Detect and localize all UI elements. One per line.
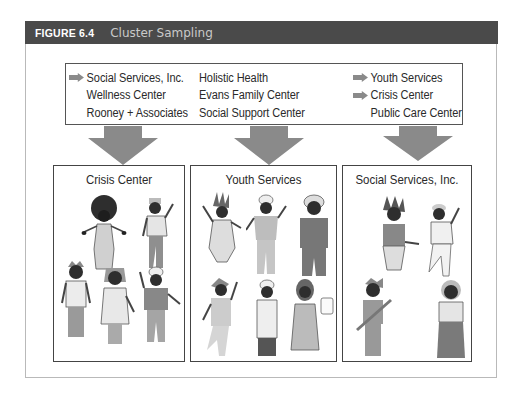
population-item-label: Holistic Health: [199, 71, 268, 85]
population-item: Evans Family Center: [199, 87, 305, 105]
person-illustration: [294, 192, 334, 278]
population-item-label: Social Services, Inc.: [87, 71, 184, 85]
person-illustration: [199, 192, 245, 276]
person-illustration: [139, 196, 179, 274]
person-illustration: [425, 202, 465, 282]
figure-title: Cluster Sampling: [110, 26, 213, 40]
cluster-title: Crisis Center: [62, 172, 176, 187]
person-illustration: [60, 261, 96, 341]
population-item-label: Crisis Center: [371, 88, 433, 102]
population-item: Public Care Center: [353, 104, 462, 122]
population-item: Social Support Center: [199, 104, 305, 122]
population-item: Holistic Health: [199, 69, 305, 87]
person-illustration: [249, 278, 285, 360]
person-illustration: [201, 278, 245, 360]
population-column-3: Youth Services Crisis Center Public Care…: [353, 69, 477, 122]
cluster-box-youth-services: Youth Services: [190, 165, 337, 362]
cluster-title: Youth Services: [200, 172, 328, 187]
population-item-label: Rooney + Associates: [87, 106, 188, 120]
population-item-label: Social Support Center: [199, 106, 305, 120]
population-item: Youth Services: [353, 69, 462, 87]
cluster-box-crisis-center: Crisis Center: [53, 165, 185, 362]
right-arrow-icon: [353, 91, 368, 100]
cluster-box-social-services-inc: Social Services, Inc.: [342, 165, 472, 362]
figure-header: FIGURE 6.4 Cluster Sampling: [25, 21, 498, 44]
person-illustration: [96, 266, 136, 348]
population-item-label: Evans Family Center: [199, 88, 299, 102]
population-column-2: Holistic Health Evans Family Center Soci…: [199, 69, 319, 122]
population-item: Rooney + Associates: [69, 104, 188, 122]
down-arrow-icon: [234, 126, 304, 170]
population-column-1: Social Services, Inc. Wellness Center Ro…: [69, 69, 204, 122]
down-arrow-icon: [383, 126, 453, 166]
population-item: Social Services, Inc.: [69, 69, 188, 87]
figure-number: FIGURE 6.4: [35, 27, 94, 39]
person-illustration: [355, 278, 399, 360]
population-item-label: Public Care Center: [371, 106, 462, 120]
person-illustration: [373, 196, 423, 280]
person-illustration: [289, 276, 335, 360]
population-item-label: Youth Services: [371, 71, 443, 85]
down-arrow-icon: [88, 126, 158, 170]
population-item: Wellness Center: [69, 87, 188, 105]
person-illustration: [138, 266, 182, 346]
population-list: Social Services, Inc. Wellness Center Ro…: [65, 63, 463, 125]
cluster-title: Social Services, Inc.: [351, 172, 464, 187]
person-illustration: [246, 192, 290, 278]
right-arrow-icon: [353, 73, 368, 82]
person-illustration: [431, 278, 471, 362]
population-item-label: Wellness Center: [87, 88, 166, 102]
population-item: Crisis Center: [353, 87, 462, 105]
right-arrow-icon: [69, 73, 84, 82]
